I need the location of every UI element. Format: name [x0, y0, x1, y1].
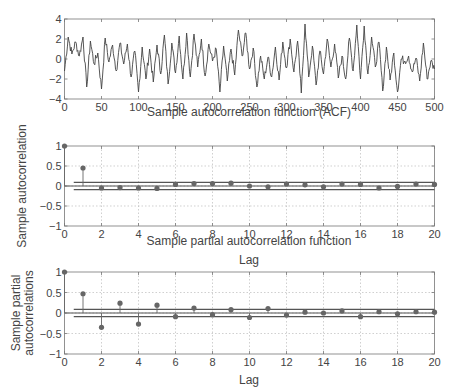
x-tick-label: 16	[354, 228, 366, 240]
stem-marker	[228, 307, 233, 312]
x-tick-label: 50	[95, 101, 107, 113]
stem-marker	[265, 306, 270, 311]
y-tick-label: −2	[49, 73, 62, 85]
axes-frame	[65, 19, 435, 99]
stem-marker	[173, 182, 178, 187]
stem-marker	[395, 184, 400, 189]
stem-marker	[265, 184, 270, 189]
x-tick-label: 500	[425, 101, 443, 113]
x-tick-label: 18	[391, 356, 403, 368]
acf-xlabel: Lag	[239, 253, 259, 267]
y-tick-label: 0	[55, 53, 61, 65]
acf-plot: 02468101214161820−1−0.500.51	[40, 140, 441, 240]
x-tick-label: 100	[129, 101, 147, 113]
x-tick-label: 18	[391, 228, 403, 240]
y-tick-label: −0.5	[40, 200, 62, 212]
pacf-plot: 02468101214161820−1−0.500.51	[40, 266, 441, 368]
x-tick-label: 20	[428, 356, 440, 368]
stem-marker	[117, 185, 122, 190]
stem-marker	[136, 321, 141, 326]
stem-marker	[395, 311, 400, 316]
stem-marker	[191, 305, 196, 310]
stem-marker	[284, 181, 289, 186]
x-tick-label: 4	[135, 228, 141, 240]
stem-marker	[302, 182, 307, 187]
stem-marker	[432, 182, 437, 187]
stem-marker	[432, 310, 437, 315]
x-tick-label: 16	[354, 356, 366, 368]
x-tick-label: 6	[172, 356, 178, 368]
stem-marker	[339, 181, 344, 186]
y-tick-label: 0	[55, 307, 61, 319]
x-tick-label: 14	[317, 356, 329, 368]
stem-marker	[339, 308, 344, 313]
x-tick-label: 0	[61, 356, 67, 368]
stem-marker	[210, 312, 215, 317]
x-tick-label: 12	[280, 356, 292, 368]
stem-marker	[302, 310, 307, 315]
pacf-title: Sample partial autocorrelation function	[147, 234, 352, 248]
time-series-line	[65, 24, 435, 93]
stem-marker	[247, 315, 252, 320]
pacf-ylabel-1: Sample partial	[9, 275, 23, 352]
stem-marker	[413, 181, 418, 186]
stem-marker	[80, 165, 85, 170]
y-tick-label: −1	[49, 348, 62, 360]
stem-marker	[80, 291, 85, 296]
stem-marker	[191, 181, 196, 186]
stem-marker	[321, 310, 326, 315]
x-tick-label: 0	[61, 228, 67, 240]
stem-marker	[321, 184, 326, 189]
y-tick-label: 0	[55, 180, 61, 192]
stem-marker	[117, 301, 122, 306]
stem-marker	[173, 314, 178, 319]
pacf-xlabel: Lag	[239, 373, 259, 387]
x-tick-label: 8	[209, 356, 215, 368]
pacf-ylabel-2: autocorrelations	[22, 270, 36, 355]
stem-marker	[154, 303, 159, 308]
y-tick-label: −1	[49, 220, 62, 232]
y-tick-label: 0.5	[46, 287, 61, 299]
x-tick-label: 0	[61, 101, 67, 113]
x-tick-label: 2	[98, 356, 104, 368]
y-tick-label: 1	[55, 140, 61, 152]
stem-marker	[413, 309, 418, 314]
y-tick-label: −4	[49, 93, 62, 105]
y-tick-label: 0.5	[46, 160, 61, 172]
x-tick-label: 10	[243, 356, 255, 368]
y-tick-label: 4	[55, 13, 61, 25]
stem-marker	[99, 185, 104, 190]
figure: 050100150200250300350400450500−4−2024 Sa…	[0, 0, 455, 388]
x-tick-label: 450	[388, 101, 406, 113]
stem-marker	[210, 181, 215, 186]
x-tick-label: 20	[428, 228, 440, 240]
stem-marker	[154, 186, 159, 191]
stem-marker	[62, 269, 67, 274]
stem-marker	[99, 325, 104, 330]
time-series-plot: 050100150200250300350400450500−4−2024	[49, 13, 444, 113]
stem-marker	[376, 309, 381, 314]
stem-marker	[247, 183, 252, 188]
stem-marker	[376, 185, 381, 190]
acf-ylabel: Sample autocorrelation	[15, 124, 29, 247]
x-tick-label: 4	[135, 356, 141, 368]
stem-marker	[136, 185, 141, 190]
stem-marker	[228, 181, 233, 186]
x-tick-label: 400	[351, 101, 369, 113]
acf-title: Sample autocorrelation function (ACF)	[147, 105, 351, 119]
stem-marker	[358, 314, 363, 319]
x-tick-label: 2	[98, 228, 104, 240]
stem-marker	[62, 143, 67, 148]
stem-marker	[284, 312, 289, 317]
stem-marker	[358, 182, 363, 187]
y-tick-label: 2	[55, 33, 61, 45]
y-tick-label: −0.5	[40, 328, 62, 340]
y-tick-label: 1	[55, 266, 61, 278]
